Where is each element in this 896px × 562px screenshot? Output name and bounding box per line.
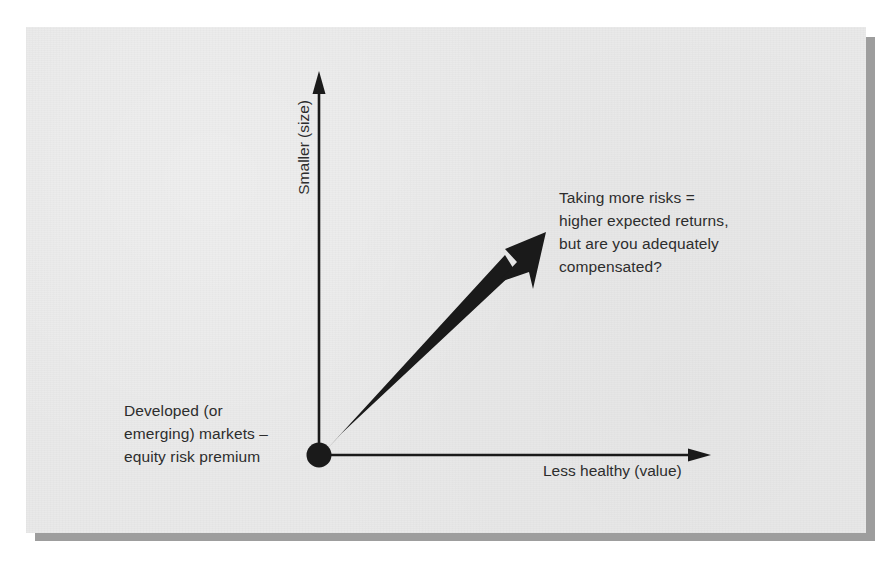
y-axis-arrow — [313, 71, 326, 455]
x-axis-label: Less healthy (value) — [543, 461, 682, 481]
x-axis-arrow — [319, 449, 711, 462]
origin-callout-text: Developed (or emerging) markets – equity… — [124, 399, 324, 468]
diagram-canvas — [0, 0, 896, 562]
risk-direction-arrow — [327, 232, 546, 449]
y-axis-label: Smaller (size) — [294, 100, 314, 195]
risk-callout-text: Taking more risks = higher expected retu… — [559, 186, 809, 278]
figure-root: Smaller (size) Less healthy (value) Deve… — [0, 0, 896, 562]
